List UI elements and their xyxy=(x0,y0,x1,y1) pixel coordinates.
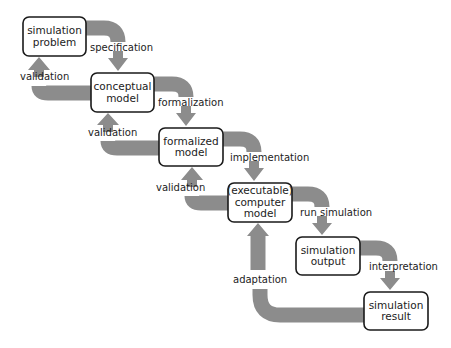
validation-arrow-band xyxy=(108,141,159,148)
edge-label-validation: validation xyxy=(20,71,69,82)
nodes-layer: simulationproblemconceptualmodelformaliz… xyxy=(23,17,428,330)
node-label-line: computer xyxy=(235,196,286,208)
node-executable-computer-model: (executable)computermodel xyxy=(227,183,293,222)
edge-label-validation: validation xyxy=(88,127,137,138)
arrow-down-icon xyxy=(108,51,128,71)
forward-arrow-band xyxy=(154,84,186,97)
node-label-line: result xyxy=(381,310,411,322)
edge-label-interpretation: interpretation xyxy=(369,261,438,272)
arrow-down-icon xyxy=(312,216,332,235)
forward-arrow-band xyxy=(86,28,118,42)
forward-arrow-band xyxy=(360,248,390,261)
forward-arrow-band xyxy=(223,139,254,152)
node-label-line: simulation xyxy=(369,299,424,311)
forward-arrow-band xyxy=(292,194,322,207)
node-conceptual-model: conceptualmodel xyxy=(91,73,154,112)
edge-label-validation: validation xyxy=(156,182,205,193)
edge-label-implementation: implementation xyxy=(230,152,309,163)
node-label-line: model xyxy=(175,146,208,158)
node-simulation-output: simulationoutput xyxy=(296,237,360,275)
edge-label-run-simulation: run simulation xyxy=(300,207,372,218)
node-label-line: problem xyxy=(33,36,76,48)
node-label-line: model xyxy=(106,92,139,104)
arrow-down-icon xyxy=(176,106,196,126)
node-simulation-result: simulationresult xyxy=(364,292,428,330)
node-label-line: simulation xyxy=(27,24,82,36)
arrow-down-icon xyxy=(380,271,400,290)
edge-label-formalization: formalization xyxy=(158,97,224,108)
node-label-line: conceptual xyxy=(94,80,152,92)
node-label-line: model xyxy=(244,207,277,219)
validation-arrow-band xyxy=(39,86,91,93)
node-formalized-model: formalizedmodel xyxy=(159,128,223,166)
validation-arrow-band xyxy=(192,196,228,203)
adaptation-arrow-band-lower xyxy=(260,289,364,315)
node-label-line: simulation xyxy=(301,244,356,256)
node-simulation-problem: simulationproblem xyxy=(23,17,86,56)
node-label-line: formalized xyxy=(163,135,218,147)
edge-label-specification: specification xyxy=(90,42,153,53)
arrow-down-icon xyxy=(244,161,264,181)
node-label-line: (executable) xyxy=(227,184,293,196)
simulation-process-diagram: simulationproblemconceptualmodelformaliz… xyxy=(0,0,451,348)
edge-label-adaptation: adaptation xyxy=(233,274,287,285)
arrow-up-icon xyxy=(247,223,269,243)
node-label-line: output xyxy=(311,255,346,267)
